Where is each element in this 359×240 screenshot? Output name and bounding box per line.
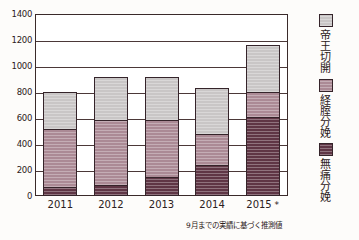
y-axis-tick-label: 1400 bbox=[12, 9, 32, 19]
y-axis-tick-label: 1200 bbox=[12, 35, 32, 45]
bar-segment[interactable] bbox=[43, 129, 77, 189]
bars-layer bbox=[35, 14, 288, 196]
bar-segment[interactable] bbox=[246, 92, 280, 118]
bar-segment[interactable] bbox=[195, 134, 229, 167]
x-axis-tick-label: 2013 bbox=[149, 199, 174, 210]
bar-segment[interactable] bbox=[145, 77, 179, 121]
bar-segment[interactable] bbox=[246, 117, 280, 196]
bar-group[interactable] bbox=[195, 88, 229, 196]
estimate-asterisk: * bbox=[272, 200, 279, 210]
legend-label: 無痛分娩 bbox=[319, 158, 330, 202]
legend-item[interactable]: 無痛分娩 bbox=[318, 143, 358, 202]
bar-segment[interactable] bbox=[195, 165, 229, 196]
bar-group[interactable] bbox=[43, 92, 77, 196]
bar-group[interactable] bbox=[145, 77, 179, 196]
x-axis-tick-label: 2015 * bbox=[246, 199, 279, 210]
bar-segment[interactable] bbox=[43, 92, 77, 130]
y-axis-tick-label: 600 bbox=[17, 113, 32, 123]
bar-segment[interactable] bbox=[246, 45, 280, 94]
bar-segment[interactable] bbox=[94, 185, 128, 196]
y-axis-tick-label: 200 bbox=[17, 165, 32, 175]
bar-segment[interactable] bbox=[145, 120, 179, 179]
x-axis-tick-label: 2011 bbox=[48, 199, 73, 210]
x-axis-tick-label: 2014 bbox=[199, 199, 224, 210]
y-axis-tick-label: 400 bbox=[17, 139, 32, 149]
bar-segment[interactable] bbox=[94, 77, 128, 122]
legend-label: 帝王切開 bbox=[319, 29, 330, 73]
bar-segment[interactable] bbox=[145, 177, 179, 196]
y-axis-tick-label: 800 bbox=[17, 87, 32, 97]
y-axis: 0200400600800100012001400 bbox=[0, 0, 35, 210]
bar-segment[interactable] bbox=[195, 88, 229, 135]
legend-swatch bbox=[319, 79, 333, 92]
bar-segment[interactable] bbox=[94, 120, 128, 186]
bar-segment[interactable] bbox=[43, 187, 77, 196]
y-axis-tick-label: 1000 bbox=[12, 61, 32, 71]
x-axis: 20112012201320142015 * bbox=[35, 199, 288, 217]
chart-legend: 帝王切開経腟分娩無痛分娩 bbox=[318, 14, 358, 210]
legend-label: 経腟分娩 bbox=[319, 94, 330, 138]
legend-swatch bbox=[319, 14, 333, 27]
y-axis-tick-label: 0 bbox=[27, 191, 32, 201]
x-axis-tick-label: 2012 bbox=[98, 199, 123, 210]
bar-group[interactable] bbox=[246, 45, 280, 196]
chart-footnote: 9月までの実績に基づく推測値 bbox=[186, 219, 282, 230]
legend-item[interactable]: 帝王切開 bbox=[318, 14, 358, 73]
bar-group[interactable] bbox=[94, 77, 128, 196]
chart-root: 0200400600800100012001400 20112012201320… bbox=[0, 0, 359, 240]
legend-swatch bbox=[319, 143, 333, 156]
legend-item[interactable]: 経腟分娩 bbox=[318, 79, 358, 138]
